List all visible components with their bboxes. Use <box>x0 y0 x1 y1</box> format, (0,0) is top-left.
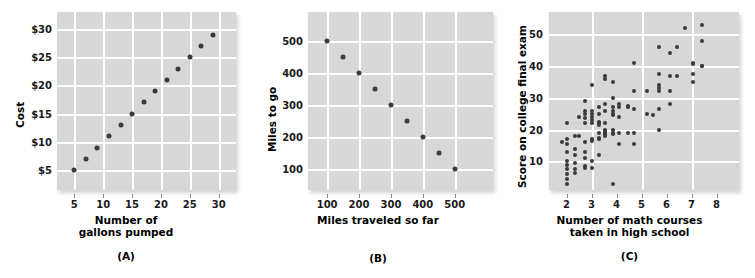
x-tick-label: 6 <box>663 199 670 210</box>
panel-c-caption: (C) <box>504 250 755 262</box>
data-point <box>597 123 601 127</box>
x-tick-label: 30 <box>212 199 226 210</box>
gridline-horizontal <box>57 29 236 31</box>
data-point <box>611 132 615 136</box>
gridline-horizontal <box>308 41 493 43</box>
y-tick-label: 10 <box>529 156 543 167</box>
gridline-vertical <box>132 12 134 190</box>
data-point <box>176 66 181 71</box>
data-point <box>597 105 601 109</box>
panel-b-x-axis-title: Miles traveled so far <box>252 214 504 226</box>
x-tick-label: 15 <box>125 199 139 210</box>
data-point <box>617 115 621 119</box>
data-point <box>573 161 577 165</box>
data-point <box>700 23 704 27</box>
three-panel-scatterplot-figure: Cost 51015202530 $5$10$15$20$25$30 Numbe… <box>0 0 755 278</box>
x-tick-mark <box>592 194 593 198</box>
data-point <box>597 137 601 141</box>
x-tick-mark <box>617 194 618 198</box>
gridline-horizontal <box>549 161 739 163</box>
x-tick-mark <box>391 194 392 198</box>
data-point <box>141 100 146 105</box>
data-point <box>560 140 564 144</box>
x-tick-mark <box>717 194 718 198</box>
data-point <box>668 74 672 78</box>
y-tick-label: $20 <box>31 80 52 91</box>
data-point <box>668 89 672 93</box>
panel-a-plot-area <box>57 12 236 190</box>
data-point <box>388 103 393 108</box>
x-tick-label: 4 <box>613 199 620 210</box>
y-tick-label: $10 <box>31 136 52 147</box>
data-point <box>164 77 169 82</box>
gridline-horizontal <box>308 105 493 107</box>
data-point <box>565 167 569 171</box>
data-point <box>700 64 704 68</box>
panel-a-caption: (A) <box>0 250 252 262</box>
panel-c-plot-area <box>549 12 739 190</box>
panel-a-x-axis-title: Number of gallons pumped <box>0 214 252 238</box>
panel-c-x-axis-title-line1: Number of math courses <box>504 214 755 226</box>
data-point <box>700 39 704 43</box>
y-tick-label: 500 <box>282 35 303 46</box>
data-point <box>565 150 569 154</box>
data-point <box>565 142 569 146</box>
data-point <box>597 153 601 157</box>
data-point <box>691 80 695 84</box>
x-tick-mark <box>327 194 328 198</box>
x-tick-mark <box>190 194 191 198</box>
panel-a-y-axis-title: Cost <box>14 102 26 128</box>
data-point <box>675 74 679 78</box>
data-point <box>657 72 661 76</box>
gridline-horizontal <box>549 34 739 36</box>
y-tick-label: 50 <box>529 29 543 40</box>
y-tick-label: 200 <box>282 132 303 143</box>
x-tick-mark <box>667 194 668 198</box>
data-point <box>657 45 661 49</box>
panel-b: Miles to go 100200300400500 100200300400… <box>252 0 504 278</box>
x-tick-label: 2 <box>563 199 570 210</box>
panel-a-x-axis-title-line2: gallons pumped <box>0 226 252 238</box>
gridline-horizontal <box>549 130 739 132</box>
y-tick-label: 40 <box>529 61 543 72</box>
data-point <box>565 177 569 181</box>
y-tick-label: 20 <box>529 124 543 135</box>
data-point <box>683 26 687 30</box>
gridline-horizontal <box>57 170 236 172</box>
data-point <box>210 32 215 37</box>
y-tick-label: 300 <box>282 100 303 111</box>
data-point <box>404 119 409 124</box>
x-tick-mark <box>359 194 360 198</box>
gridline-vertical <box>103 12 105 190</box>
panel-c-x-axis-title: Number of math courses taken in high sch… <box>504 214 755 238</box>
x-tick-mark <box>423 194 424 198</box>
gridline-vertical <box>455 12 457 190</box>
data-point <box>590 139 594 143</box>
data-point <box>130 111 135 116</box>
x-tick-mark <box>74 194 75 198</box>
x-tick-label: 400 <box>412 199 433 210</box>
data-point <box>420 135 425 140</box>
gridline-horizontal <box>308 137 493 139</box>
data-point <box>626 105 630 109</box>
gridline-horizontal <box>57 85 236 87</box>
data-point <box>153 89 158 94</box>
data-point <box>632 89 636 93</box>
gridline-vertical <box>219 12 221 190</box>
gridline-horizontal <box>57 142 236 144</box>
data-point <box>95 145 100 150</box>
data-point <box>72 168 77 173</box>
gridline-vertical <box>391 12 393 190</box>
y-tick-label: 30 <box>529 92 543 103</box>
data-point <box>187 55 192 60</box>
data-point <box>645 112 649 116</box>
gridline-horizontal <box>308 73 493 75</box>
x-tick-label: 100 <box>317 199 338 210</box>
gridline-horizontal <box>308 169 493 171</box>
panel-a-x-axis-title-line1: Number of <box>0 214 252 226</box>
data-point <box>632 107 636 111</box>
data-point <box>583 99 587 103</box>
data-point <box>632 61 636 65</box>
x-tick-label: 3 <box>588 199 595 210</box>
data-point <box>657 89 661 93</box>
